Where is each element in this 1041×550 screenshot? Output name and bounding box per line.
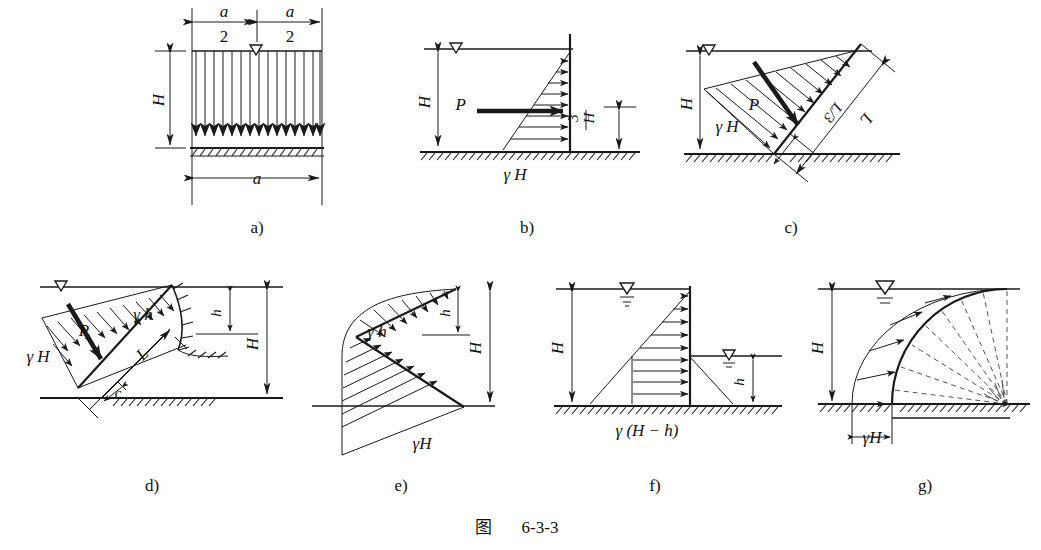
ground-hatch-icon	[421, 153, 635, 160]
panel-d-l-ext-low	[78, 398, 98, 418]
panel-g-centre-fan	[984, 380, 1004, 401]
panel-e-wall-lower	[356, 337, 464, 407]
panel-d-l-dim	[103, 330, 170, 397]
panel-c-height-label: H	[677, 96, 696, 111]
panel-d-chord-label: c	[115, 385, 122, 401]
panel-d-length-label: L	[131, 344, 152, 365]
panel-c-l-ext-top	[861, 44, 895, 72]
panel-a-height-label: H	[149, 92, 168, 107]
panel-d-resultant-label: P	[78, 321, 89, 340]
panel-c-sub-label: c)	[784, 218, 797, 237]
panel-g-sub-label: g)	[918, 476, 932, 495]
panel-c-lever-label: L/3	[820, 99, 846, 125]
ground-hatch-icon	[113, 399, 215, 406]
panel-b-pressure-envelope	[503, 52, 570, 150]
water-table-icon	[55, 281, 67, 291]
panel-d-height-label: H	[243, 336, 262, 351]
panel-g-base-pressure-label: γH	[863, 428, 884, 447]
panel-b-lever-numerator: H	[581, 111, 597, 124]
panel-f-right-envelope	[690, 357, 733, 404]
panel-f: H h γ (H − h) f)	[548, 283, 782, 495]
ground-hatch-icon	[820, 405, 1026, 412]
ground-hatch-icon	[190, 149, 324, 156]
panel-a-half-left-numerator: a	[220, 2, 229, 21]
water-table-icon	[250, 45, 262, 55]
panel-f-sub-label: f)	[649, 476, 660, 495]
water-table-icon	[450, 43, 462, 53]
ground-hatch-icon	[556, 407, 778, 414]
panel-d-sub-label: d)	[145, 476, 159, 495]
panel-c-length-label: L	[856, 109, 877, 129]
panel-a-sub-label: a)	[250, 218, 263, 237]
panel-d-pressure-arrows	[47, 295, 174, 366]
panel-c-l3-ext	[789, 133, 816, 155]
panel-c-base-pressure-label: γ H	[715, 117, 740, 136]
water-table-icon	[620, 283, 634, 306]
panel-a-half-right-numerator: a	[286, 2, 295, 21]
panel-g-pressure-envelope	[852, 289, 1007, 404]
panel-a-half-right-denominator: 2	[286, 27, 295, 46]
figure-root: a 2 a 2 H	[0, 0, 1041, 550]
panel-f-height-label: H	[548, 340, 567, 355]
figure-caption-number: 6-3-3	[522, 518, 559, 537]
panel-b-pressure-arrows	[511, 61, 568, 139]
ground-hatch-icon	[686, 155, 892, 162]
panel-e-left-boundary	[342, 330, 348, 406]
panel-e-lower-envelope	[342, 407, 464, 455]
panel-e: γ h γH h H e)	[312, 289, 495, 495]
panel-d: P γ h γ H L c h H d)	[26, 281, 283, 495]
panel-d-base-pressure-label: γ H	[26, 347, 51, 366]
panel-g: H γH g)	[808, 281, 1030, 495]
radial-dashed-icon	[892, 289, 1007, 404]
panel-a-half-left-denominator: 2	[220, 27, 229, 46]
panel-b: H P	[415, 34, 640, 237]
panel-f-pressure-arrows	[633, 296, 688, 394]
water-table-icon	[723, 350, 735, 367]
panel-b-base-pressure-label: γ H	[503, 165, 528, 184]
panel-b-height-label: H	[415, 94, 434, 109]
panel-e-small-head-label: h	[437, 309, 453, 317]
panel-d-top-pressure-label: γ h	[133, 305, 152, 324]
panel-c-pressure-envelope	[704, 51, 855, 89]
panel-f-small-head-label: h	[731, 378, 747, 386]
panel-a: a 2 a 2 H	[149, 2, 324, 237]
figure-canvas: a 2 a 2 H	[0, 0, 1041, 550]
panel-f-net-pressure-label: γ (H − h)	[615, 421, 678, 440]
panel-e-base-pressure-label: γH	[413, 434, 434, 453]
figure-caption-cn: 图	[475, 517, 492, 537]
panel-e-height-label: H	[466, 340, 485, 355]
panel-d-small-head-label: h	[208, 309, 224, 317]
panel-g-curved-wall	[892, 289, 1007, 404]
panel-c-resultant-arrow	[754, 62, 798, 125]
water-table-icon	[876, 281, 894, 303]
panel-a-load-arrows	[196, 51, 320, 136]
panel-b-sub-label: b)	[520, 218, 534, 237]
panel-c: H P γ H	[677, 44, 900, 237]
panel-g-height-label: H	[808, 340, 827, 355]
panel-e-top-pressure-label: γ h	[367, 322, 386, 341]
panel-e-lower-arrows	[342, 338, 437, 427]
panel-a-base-width-label: a	[253, 169, 262, 188]
panel-e-sub-label: e)	[394, 476, 407, 495]
panel-b-resultant-label: P	[455, 95, 466, 114]
panel-d-inclined-wall	[78, 285, 172, 388]
water-table-icon	[703, 45, 715, 55]
panel-b-lever-denominator: 3	[565, 114, 581, 123]
panel-c-resultant-label: P	[748, 95, 759, 114]
panel-d-curved-wall	[172, 285, 182, 350]
